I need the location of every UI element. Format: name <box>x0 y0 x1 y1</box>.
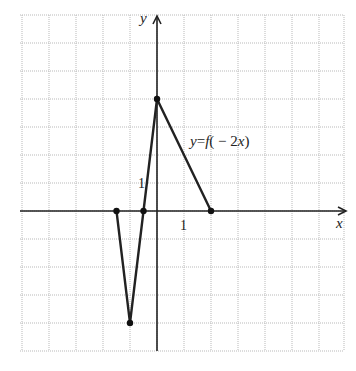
x-tick-label: 1 <box>180 218 187 233</box>
y-tick-label: 1 <box>138 176 145 191</box>
curve-label-part: y <box>188 133 197 149</box>
curve-label: y=f( − 2x) <box>188 133 249 150</box>
grid <box>20 15 344 351</box>
data-point <box>208 208 214 214</box>
data-point <box>127 320 133 326</box>
graph-canvas: x y 1 1 y=f( − 2x) <box>0 0 356 371</box>
y-axis-label: y <box>138 10 147 26</box>
data-point <box>113 208 119 214</box>
x-axis-label: x <box>335 215 343 231</box>
data-point <box>140 208 146 214</box>
data-point <box>154 96 160 102</box>
curve-label-part: − <box>214 133 230 149</box>
curve-label-part: = <box>197 133 205 149</box>
curve-label-part: 2 <box>230 133 238 149</box>
curve-label-part: ) <box>244 133 249 150</box>
